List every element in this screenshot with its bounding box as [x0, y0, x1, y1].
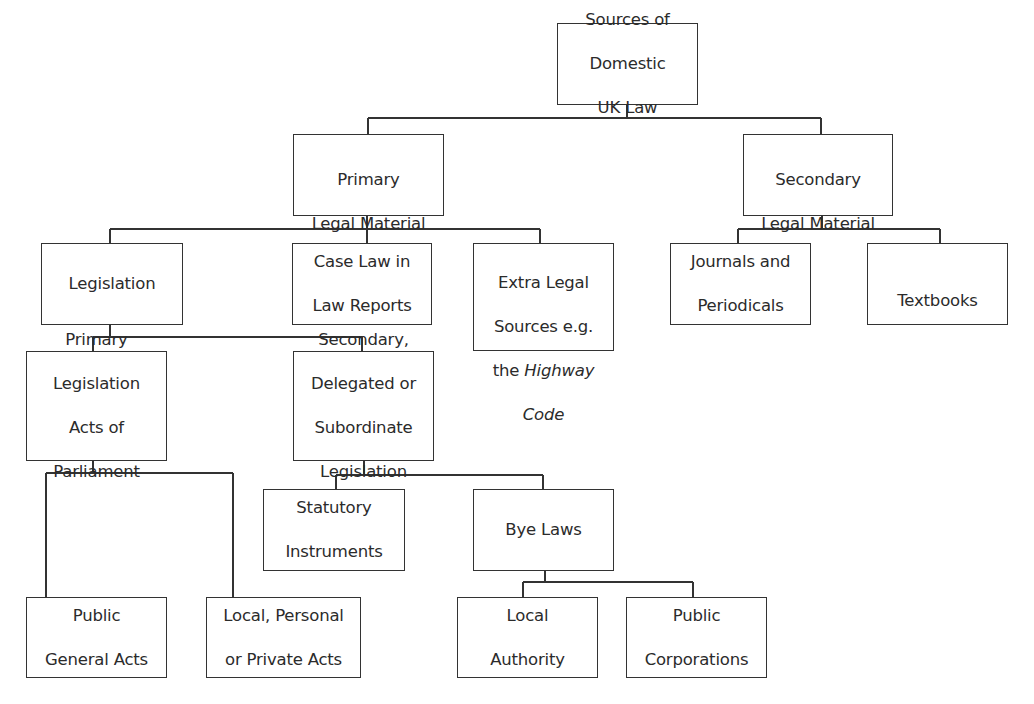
highway-code-italic: Code: [523, 405, 564, 424]
node-textbooks: Textbooks: [867, 243, 1008, 325]
node-bye-laws: Bye Laws: [473, 489, 614, 571]
node-label: Public General Acts: [45, 583, 148, 693]
node-primary-legal-material: Primary Legal Material: [293, 134, 444, 216]
node-label: Primary Legislation Acts of Parliament: [53, 307, 140, 505]
node-local-personal-private-acts: Local, Personal or Private Acts: [206, 597, 361, 678]
node-label: Local Authority: [490, 583, 565, 693]
node-public-corporations: Public Corporations: [626, 597, 767, 678]
node-label: Extra Legal Sources e.g. the Highway Cod…: [493, 250, 594, 448]
node-label: Local, Personal or Private Acts: [223, 583, 343, 693]
node-label: Statutory Instruments: [285, 475, 382, 585]
node-primary-legislation-acts-of-parliament: Primary Legislation Acts of Parliament: [26, 351, 167, 461]
node-sources-of-domestic-uk-law: Sources of Domestic UK Law: [557, 23, 698, 105]
node-label: Bye Laws: [505, 497, 581, 563]
node-public-general-acts: Public General Acts: [26, 597, 167, 678]
node-journals-and-periodicals: Journals and Periodicals: [670, 243, 811, 325]
node-label: Textbooks: [897, 268, 977, 334]
node-label: Journals and Periodicals: [691, 229, 791, 339]
node-local-authority: Local Authority: [457, 597, 598, 678]
node-label: Sources of Domestic UK Law: [585, 0, 669, 141]
node-extra-legal-sources: Extra Legal Sources e.g. the Highway Cod…: [473, 243, 614, 351]
node-secondary-delegated-subordinate-legislation: Secondary, Delegated or Subordinate Legi…: [293, 351, 434, 461]
law-sources-diagram: Sources of Domestic UK Law Primary Legal…: [0, 0, 1034, 704]
node-statutory-instruments: Statutory Instruments: [263, 489, 405, 571]
node-label: Public Corporations: [645, 583, 749, 693]
node-secondary-legal-material: Secondary Legal Material: [743, 134, 893, 216]
highway-code-italic: Highway: [524, 361, 594, 380]
